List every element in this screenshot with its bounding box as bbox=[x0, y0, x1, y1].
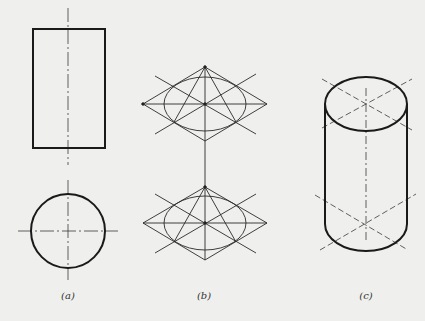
front-view-rectangle bbox=[33, 29, 105, 148]
bottom-arc-line-1 bbox=[174, 187, 205, 242]
panel-c bbox=[315, 77, 416, 251]
vertex-dot bbox=[204, 186, 207, 189]
label-c: (c) bbox=[359, 290, 373, 301]
panel-a bbox=[18, 8, 118, 280]
bottom-arc-line-2 bbox=[205, 187, 236, 242]
center-dot bbox=[204, 222, 207, 225]
vertex-dot bbox=[142, 103, 145, 106]
vertex-dot bbox=[204, 66, 207, 69]
panel-b bbox=[142, 66, 267, 260]
label-b: (b) bbox=[197, 290, 211, 301]
label-a: (a) bbox=[61, 290, 75, 301]
cylinder-isometric-figure: (a) (b) (c) bbox=[0, 0, 425, 321]
center-dot bbox=[204, 103, 207, 106]
bottom-dash-axis-1 bbox=[315, 195, 408, 250]
